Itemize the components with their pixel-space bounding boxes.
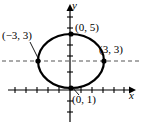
y-axis-label: y: [72, 0, 77, 11]
x-axis-label: x: [129, 90, 134, 101]
leader-left: [30, 42, 39, 60]
ellipse-figure: (−3, 3) (0, 5) (3, 3) (0, 1) x y: [0, 0, 142, 128]
point-label-top-vertex: (0, 5): [75, 22, 99, 33]
coordinate-plane-svg: [0, 0, 142, 128]
point-label-left-vertex: (−3, 3): [2, 30, 32, 41]
point-label-right-vertex: (3, 3): [99, 44, 123, 55]
dot-left-vertex: [35, 58, 40, 63]
dot-bottom-vertex: [68, 85, 73, 90]
point-label-bottom-vertex: (0, 1): [72, 94, 96, 105]
dot-right-vertex: [101, 58, 106, 63]
dot-top-vertex: [68, 31, 73, 36]
